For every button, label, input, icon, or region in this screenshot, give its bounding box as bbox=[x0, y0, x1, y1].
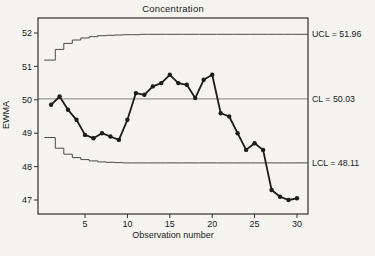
ewma-point bbox=[168, 73, 172, 77]
y-tick-label: 49 bbox=[22, 128, 32, 138]
ewma-point bbox=[134, 91, 138, 95]
ewma-point bbox=[210, 73, 214, 77]
ewma-point bbox=[66, 108, 70, 112]
ewma-point bbox=[159, 81, 163, 85]
ucl-step-line bbox=[44, 34, 308, 60]
y-tick-label: 51 bbox=[22, 62, 32, 72]
ewma-point bbox=[244, 148, 248, 152]
ewma-point bbox=[269, 188, 273, 192]
x-tick-label: 15 bbox=[165, 219, 175, 229]
y-tick-label: 52 bbox=[22, 28, 32, 38]
ewma-point bbox=[125, 118, 129, 122]
ewma-point bbox=[252, 141, 256, 145]
ucl-label: UCL = 51.96 bbox=[312, 29, 375, 39]
ewma-point bbox=[151, 84, 155, 88]
ewma-point bbox=[278, 195, 282, 199]
ewma-point bbox=[100, 131, 104, 135]
ewma-point bbox=[108, 134, 112, 138]
ewma-point bbox=[117, 138, 121, 142]
chart-title: Concentration bbox=[38, 3, 308, 14]
x-tick-label: 10 bbox=[122, 219, 132, 229]
ewma-series-line bbox=[51, 75, 297, 200]
ewma-point bbox=[227, 114, 231, 118]
ewma-point bbox=[261, 148, 265, 152]
ewma-point bbox=[83, 133, 87, 137]
cl-label: CL = 50.03 bbox=[312, 94, 375, 104]
ewma-point bbox=[286, 198, 290, 202]
ewma-point bbox=[193, 96, 197, 100]
lcl-step-line bbox=[44, 138, 308, 163]
ewma-point bbox=[295, 196, 299, 200]
x-tick-label: 30 bbox=[292, 219, 302, 229]
ewma-point bbox=[185, 83, 189, 87]
y-tick-label: 50 bbox=[22, 95, 32, 105]
ewma-point bbox=[235, 131, 239, 135]
y-axis-title: EWMA bbox=[1, 87, 11, 143]
ewma-point bbox=[49, 103, 53, 107]
y-tick-label: 47 bbox=[22, 195, 32, 205]
y-tick-label: 48 bbox=[22, 162, 32, 172]
ewma-point bbox=[91, 136, 95, 140]
ewma-point bbox=[74, 118, 78, 122]
plot-frame bbox=[38, 18, 308, 214]
ewma-point bbox=[202, 78, 206, 82]
x-axis-title: Observation number bbox=[38, 230, 308, 240]
ewma-control-chart: 51015202530474849505152 Concentration EW… bbox=[0, 0, 375, 256]
lcl-label: LCL = 48.11 bbox=[312, 158, 375, 168]
ewma-point bbox=[142, 93, 146, 97]
ewma-point bbox=[57, 94, 61, 98]
x-tick-label: 25 bbox=[250, 219, 260, 229]
ewma-point bbox=[176, 81, 180, 85]
x-tick-label: 20 bbox=[207, 219, 217, 229]
x-tick-label: 5 bbox=[82, 219, 87, 229]
ewma-point bbox=[219, 111, 223, 115]
